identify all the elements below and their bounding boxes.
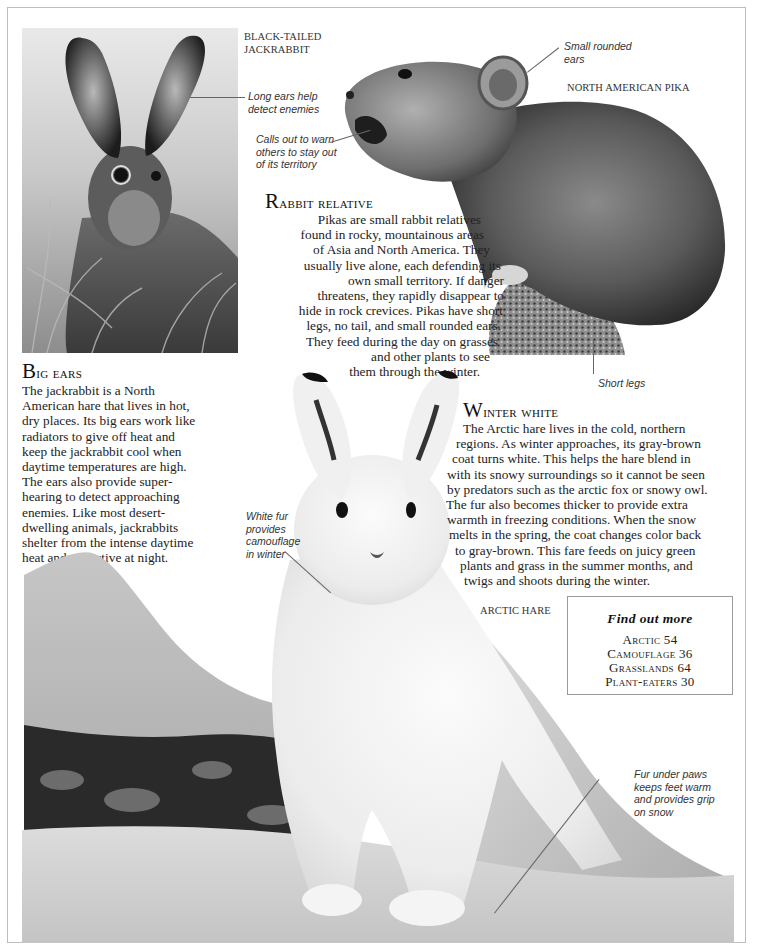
find-out-more-link-plant-eaters[interactable]: Plant-eaters 30	[568, 675, 732, 689]
body-line: to gray-brown. This fare feeds on juicy …	[446, 543, 736, 558]
caption-line: Small rounded	[564, 40, 632, 53]
body-line: They feed during the day on grasses	[264, 334, 506, 349]
heading-rest: abbit relative	[279, 194, 373, 211]
caption-line: Fur under paws	[634, 768, 715, 781]
body-line: Pikas are small rabbit relatives	[264, 212, 506, 227]
jackrabbit-photo	[22, 28, 238, 353]
topic: Arctic	[623, 632, 661, 647]
find-out-more-box: Find out more Arctic 54 Camouflage 36 Gr…	[567, 596, 733, 695]
find-out-more-link-grasslands[interactable]: Grasslands 64	[568, 661, 732, 675]
page-number: 64	[677, 660, 691, 675]
body-line: hide in rock crevices. Pikas have short	[264, 303, 506, 318]
calls-out-caption: Calls out to warn others to stay out of …	[256, 133, 337, 171]
caption-line: others to stay out	[256, 146, 337, 159]
caption-line: ears	[564, 53, 632, 66]
heading-initial: R	[265, 189, 279, 213]
topic: Camouflage	[607, 646, 675, 661]
long-ears-leader-line	[190, 97, 245, 98]
caption-line: Calls out to warn	[256, 133, 337, 146]
heading-initial: W	[463, 398, 483, 422]
body-line: by predators such as the arctic fox or s…	[446, 482, 736, 497]
body-line: threatens, they rapidly disappear to	[264, 288, 506, 303]
body-line: with its snowy surroundings so it cannot…	[446, 467, 736, 482]
body-line: coat turns white. This helps the hare bl…	[446, 451, 736, 466]
body-line: The Arctic hare lives in the cold, north…	[446, 421, 736, 436]
body-line: usually live alone, each defending its	[264, 258, 506, 273]
body-line: twigs and shoots during the winter.	[446, 573, 736, 588]
find-out-more-link-arctic[interactable]: Arctic 54	[568, 633, 732, 647]
body-line: own small territory. If danger	[264, 273, 506, 288]
body-line: of Asia and North America. They	[264, 242, 506, 257]
page-number: 30	[681, 674, 695, 689]
body-line: plants and grass in the summer months, a…	[446, 558, 736, 573]
find-out-more-link-camouflage[interactable]: Camouflage 36	[568, 647, 732, 661]
body-line: The fur also becomes thicker to provide …	[446, 497, 736, 512]
caption-line: detect enemies	[248, 103, 319, 116]
caption-line: keeps feet warm	[634, 781, 715, 794]
body-line: warmth in freezing conditions. When the …	[446, 512, 736, 527]
long-ears-caption: Long ears help detect enemies	[248, 90, 319, 115]
arctic-hare-species-label: ARCTIC HARE	[480, 604, 551, 617]
pika-species-label: NORTH AMERICAN PIKA	[567, 81, 690, 94]
body-line: found in rocky, mountainous areas	[264, 227, 506, 242]
jackrabbit-label-line: JACKRABBIT	[244, 43, 321, 56]
caption-line: White fur	[246, 510, 300, 523]
jackrabbit-label-line: BLACK-TAILED	[244, 30, 321, 43]
body-line: melts in the spring, the coat changes co…	[446, 527, 736, 542]
caption-line: Long ears help	[248, 90, 319, 103]
winter-white-heading: Winter white	[463, 401, 558, 421]
page-number: 36	[679, 646, 693, 661]
white-fur-caption: White fur provides camouflage in winter	[246, 510, 300, 560]
small-ears-caption: Small rounded ears	[564, 40, 632, 65]
caption-line: and provides grip	[634, 793, 715, 806]
topic: Grasslands	[609, 660, 674, 675]
topic: Plant-eaters	[605, 674, 677, 689]
caption-line: provides	[246, 523, 300, 536]
find-out-more-list: Arctic 54 Camouflage 36 Grasslands 64 Pl…	[568, 633, 732, 689]
caption-line: camouflage	[246, 535, 300, 548]
winter-white-body: The Arctic hare lives in the cold, north…	[446, 421, 736, 588]
body-line: regions. As winter approaches, its gray-…	[446, 436, 736, 451]
find-out-more-title: Find out more	[568, 611, 732, 627]
caption-line: on snow	[634, 806, 715, 819]
fur-paws-caption: Fur under paws keeps feet warm and provi…	[634, 768, 715, 818]
jackrabbit-species-label: BLACK-TAILED JACKRABBIT	[244, 30, 321, 56]
rabbit-relative-heading: Rabbit relative	[265, 192, 373, 212]
heading-rest: inter white	[483, 403, 558, 420]
caption-line: of its territory	[256, 158, 337, 171]
page-number: 54	[664, 632, 678, 647]
body-line: legs, no tail, and small rounded ears.	[264, 318, 506, 333]
rabbit-relative-body: Pikas are small rabbit relatives found i…	[264, 212, 506, 379]
